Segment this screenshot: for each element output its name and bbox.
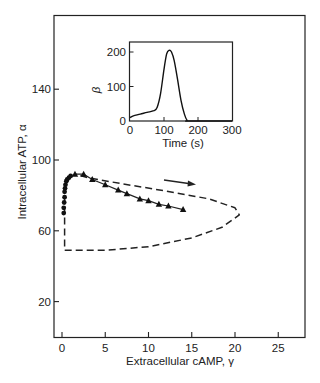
x-tick-label: 25 [272, 342, 285, 354]
inset-y-tick-label: 200 [107, 46, 126, 58]
limit-cycle-dashed [65, 174, 240, 250]
x-tick-label: 15 [185, 342, 198, 354]
inset-y-axis-label: β [90, 86, 102, 94]
main-y-axis-label: Intracellular ATP, α [16, 124, 28, 219]
x-tick-label: 10 [142, 342, 155, 354]
x-tick-label: 5 [102, 342, 108, 354]
y-tick-label: 60 [38, 225, 51, 237]
inset-x-axis-label: Time (s) [162, 137, 204, 149]
main-y-axis: 2060100140 [32, 83, 59, 307]
inset-x-tick-label: 100 [154, 124, 173, 136]
main-x-axis-label: Extracellular cAMP, γ [126, 355, 234, 367]
inset-y-tick-label: 100 [107, 81, 126, 93]
circle-marker [61, 211, 66, 216]
x-tick-label: 20 [229, 342, 242, 354]
circle-series [61, 174, 73, 216]
circle-marker [62, 200, 67, 205]
y-tick-label: 20 [38, 296, 51, 308]
inset-x-tick-label: 200 [188, 124, 207, 136]
circle-marker [61, 205, 66, 210]
y-tick-label: 140 [32, 83, 51, 95]
main-x-axis: 0510152025 [59, 332, 285, 354]
inset-x-tick-label: 300 [222, 124, 241, 136]
circle-marker [62, 195, 67, 200]
x-tick-label: 0 [59, 342, 65, 354]
inset-plot-frame [130, 42, 233, 121]
inset-y-tick-label: 0 [120, 115, 126, 127]
direction-arrow-icon [164, 180, 196, 187]
circle-marker [68, 174, 73, 179]
chart-canvas: 0510152025 2060100140 Extracellular cAMP… [0, 0, 320, 383]
y-tick-label: 100 [32, 154, 51, 166]
inset-x-tick-label: 0 [127, 124, 133, 136]
